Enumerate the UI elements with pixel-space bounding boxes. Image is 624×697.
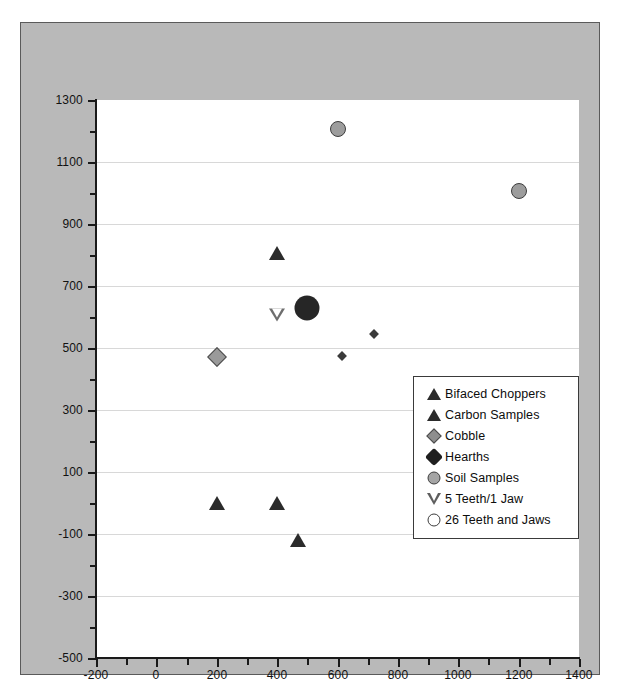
y-tick-minor	[90, 379, 97, 381]
gridline	[96, 224, 579, 225]
y-tick-label: -500	[39, 652, 83, 664]
data-point-soil-samples	[330, 121, 346, 137]
y-tick-major	[88, 472, 97, 474]
gridline	[96, 348, 579, 349]
legend[interactable]: Bifaced ChoppersCarbon SamplesCobbleHear…	[413, 376, 579, 539]
data-point-soil-samples	[511, 183, 527, 199]
legend-item-label: 26 Teeth and Jaws	[445, 513, 551, 527]
x-tick-minor	[126, 659, 128, 665]
data-point-bifaced-choppers	[269, 246, 285, 260]
y-tick-label: 500	[39, 342, 83, 354]
y-tick-major	[88, 162, 97, 164]
x-tick-minor	[247, 659, 249, 665]
x-tick-major	[217, 659, 219, 667]
x-tick-major	[458, 659, 460, 667]
y-tick-minor	[90, 441, 97, 443]
x-tick-label: -200	[66, 669, 126, 681]
circle-open-icon	[423, 509, 445, 530]
y-tick-major	[88, 410, 97, 412]
x-tick-minor	[488, 659, 490, 665]
x-tick-major	[579, 659, 581, 667]
y-tick-label: 1100	[39, 156, 83, 168]
x-tick-minor	[428, 659, 430, 665]
legend-item-label: Soil Samples	[445, 471, 519, 485]
data-markers	[21, 23, 599, 36]
y-tick-major	[88, 224, 97, 226]
x-tick-major	[398, 659, 400, 667]
x-tick-label: 1200	[489, 669, 549, 681]
legend-item-hearths[interactable]: Hearths	[414, 446, 578, 467]
y-tick-label: -300	[39, 590, 83, 602]
x-tick-minor	[307, 659, 309, 665]
y-tick-major	[88, 286, 97, 288]
chart-panel: -500-300-10010030050070090011001300 -200…	[20, 22, 600, 675]
legend-item-label: Hearths	[445, 450, 489, 464]
chart-page: -500-300-10010030050070090011001300 -200…	[0, 0, 624, 697]
x-tick-major	[96, 659, 98, 667]
y-tick-label: -100	[39, 528, 83, 540]
triangle-down-open-icon	[423, 488, 445, 509]
legend-item-soil-samples[interactable]: Soil Samples	[414, 467, 578, 488]
x-tick-major	[338, 659, 340, 667]
legend-item-bifaced-choppers[interactable]: Bifaced Choppers	[414, 383, 578, 404]
legend-item-label: 5 Teeth/1 Jaw	[445, 492, 523, 506]
legend-item-label: Carbon Samples	[445, 408, 540, 422]
y-tick-major	[88, 348, 97, 350]
y-tick-label: 100	[39, 466, 83, 478]
y-tick-minor	[90, 627, 97, 629]
y-tick-minor	[90, 503, 97, 505]
y-tick-major	[88, 534, 97, 536]
x-tick-label: 400	[247, 669, 307, 681]
x-tick-minor	[368, 659, 370, 665]
x-tick-minor	[187, 659, 189, 665]
x-tick-label: 0	[126, 669, 186, 681]
legend-item-cobble[interactable]: Cobble	[414, 425, 578, 446]
gridline	[96, 596, 579, 597]
y-tick-label: 900	[39, 218, 83, 230]
x-tick-label: 1000	[428, 669, 488, 681]
triangle-up-filled-icon	[423, 404, 445, 425]
y-tick-major	[88, 596, 97, 598]
y-tick-minor	[90, 255, 97, 257]
y-tick-major	[88, 100, 97, 102]
data-point-carbon-samples	[290, 533, 306, 547]
x-tick-label: 1400	[549, 669, 609, 681]
y-tick-minor	[90, 565, 97, 567]
x-tick-label: 800	[368, 669, 428, 681]
y-tick-label: 700	[39, 280, 83, 292]
data-point-5-teeth-1-jaw	[269, 309, 285, 322]
circle-gray-icon	[423, 467, 445, 488]
data-point-carbon-samples	[269, 496, 285, 510]
x-tick-major	[156, 659, 158, 667]
x-tick-major	[519, 659, 521, 667]
y-tick-label: 1300	[39, 94, 83, 106]
legend-item-label: Cobble	[445, 429, 485, 443]
y-tick-minor	[90, 193, 97, 195]
data-point-hearths	[295, 295, 320, 320]
y-tick-minor	[90, 131, 97, 133]
legend-item-label: Bifaced Choppers	[445, 387, 546, 401]
gridline	[96, 162, 579, 163]
x-tick-label: 200	[187, 669, 247, 681]
x-tick-major	[277, 659, 279, 667]
data-point-carbon-samples	[209, 496, 225, 510]
legend-item-carbon-samples[interactable]: Carbon Samples	[414, 404, 578, 425]
y-tick-label: 300	[39, 404, 83, 416]
x-tick-minor	[549, 659, 551, 665]
legend-item-26-teeth-and-jaws[interactable]: 26 Teeth and Jaws	[414, 509, 578, 530]
legend-item-5-teeth-1-jaw[interactable]: 5 Teeth/1 Jaw	[414, 488, 578, 509]
y-tick-minor	[90, 317, 97, 319]
triangle-up-filled-icon	[423, 383, 445, 404]
diamond-black-icon	[423, 446, 445, 467]
gridline	[96, 286, 579, 287]
x-tick-label: 600	[308, 669, 368, 681]
diamond-gray-icon	[423, 425, 445, 446]
